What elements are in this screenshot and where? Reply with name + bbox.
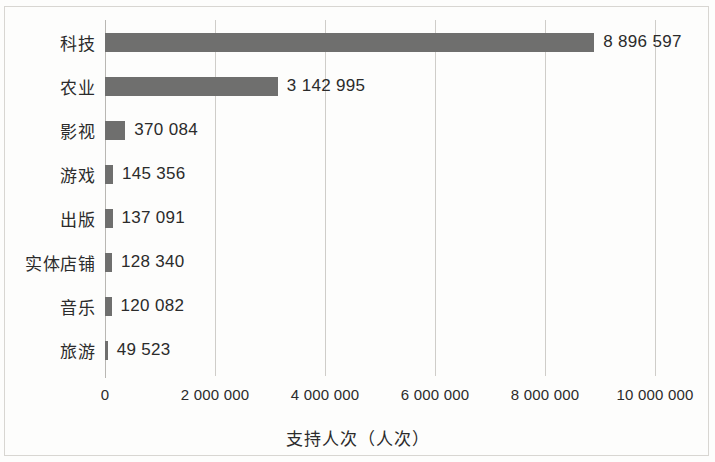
bar <box>105 297 112 316</box>
x-tick-label: 2 000 000 <box>181 386 250 403</box>
category-label: 出版 <box>0 206 95 231</box>
category-label: 影视 <box>0 118 95 143</box>
bar-row: 游戏145 356 <box>0 152 715 196</box>
category-label: 游戏 <box>0 162 95 187</box>
bar-row: 旅游49 523 <box>0 328 715 372</box>
bar-value-label: 3 142 995 <box>287 76 365 96</box>
category-label: 音乐 <box>0 294 95 319</box>
category-label: 旅游 <box>0 338 95 363</box>
x-axis-title: 支持人次（人次） <box>0 425 715 450</box>
bar <box>105 77 278 96</box>
category-label: 实体店铺 <box>0 250 95 275</box>
bar-value-label: 49 523 <box>117 340 171 360</box>
category-label: 农业 <box>0 74 95 99</box>
bar-row: 科技8 896 597 <box>0 20 715 64</box>
x-tick-label: 6 000 000 <box>401 386 470 403</box>
bar-row: 实体店铺128 340 <box>0 240 715 284</box>
bar <box>105 33 594 52</box>
bar <box>105 253 112 272</box>
plot-area: 02 000 0004 000 0006 000 0008 000 00010 … <box>0 0 715 462</box>
bar-value-label: 8 896 597 <box>603 32 681 52</box>
bar-value-label: 137 091 <box>122 208 186 228</box>
category-label: 科技 <box>0 30 95 55</box>
bar-value-label: 145 356 <box>122 164 186 184</box>
x-tick-label: 8 000 000 <box>511 386 580 403</box>
bar-value-label: 370 084 <box>134 120 198 140</box>
x-tick-label: 0 <box>101 386 110 403</box>
x-tick-label: 10 000 000 <box>616 386 693 403</box>
bar <box>105 341 108 360</box>
bar-row: 农业3 142 995 <box>0 64 715 108</box>
bar <box>105 121 125 140</box>
x-tick-label: 4 000 000 <box>291 386 360 403</box>
bar-chart-figure: 02 000 0004 000 0006 000 0008 000 00010 … <box>0 0 715 462</box>
bar-row: 出版137 091 <box>0 196 715 240</box>
bar <box>105 209 113 228</box>
bar-row: 影视370 084 <box>0 108 715 152</box>
bar-row: 音乐120 082 <box>0 284 715 328</box>
bar <box>105 165 113 184</box>
bar-value-label: 120 082 <box>121 296 185 316</box>
bar-value-label: 128 340 <box>121 252 185 272</box>
